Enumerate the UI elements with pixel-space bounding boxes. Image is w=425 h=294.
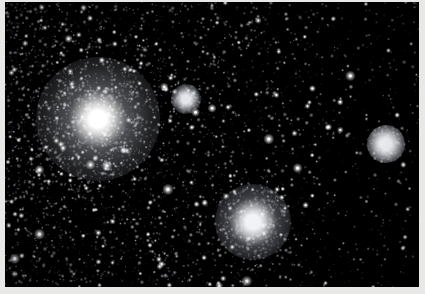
star-field-canvas [5,2,419,287]
star-field-image-viewport [0,0,425,294]
astronomical-plate [5,2,419,287]
